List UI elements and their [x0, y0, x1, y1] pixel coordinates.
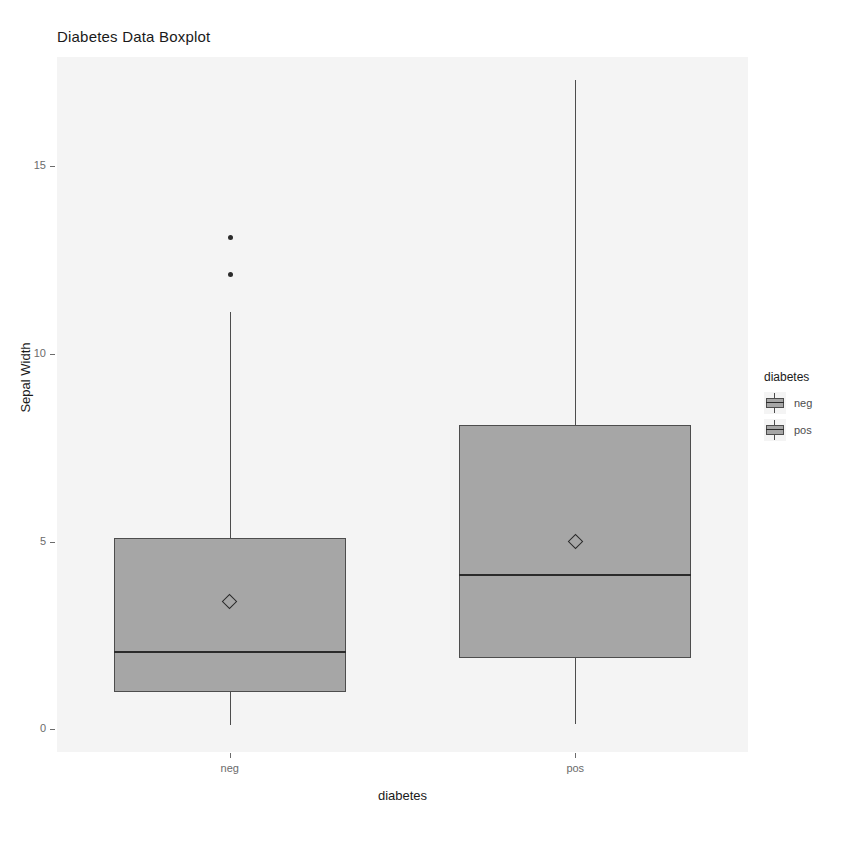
y-tick-label: 5 [0, 535, 46, 547]
median-line [114, 651, 346, 653]
legend-item-pos[interactable]: pos [764, 419, 848, 441]
whisker-upper [575, 80, 576, 426]
outlier-point [228, 272, 233, 277]
x-axis-title: diabetes [57, 788, 748, 803]
median-line [459, 574, 691, 576]
x-tick-label-pos: pos [535, 762, 615, 774]
chart-title: Diabetes Data Boxplot [57, 28, 210, 45]
y-tick-label: 0 [0, 722, 46, 734]
x-tick-mark [230, 753, 231, 758]
y-tick-mark [50, 166, 55, 167]
legend-key-icon [764, 419, 786, 441]
legend: diabetes negpos [764, 370, 848, 446]
whisker-lower [230, 692, 231, 725]
y-tick-mark [50, 729, 55, 730]
y-tick-mark [50, 354, 55, 355]
y-axis-title: Sepal Width [18, 298, 33, 458]
legend-entries: negpos [764, 392, 848, 441]
legend-key-icon [764, 392, 786, 414]
legend-title: diabetes [764, 370, 848, 384]
outlier-point [228, 235, 233, 240]
legend-item-neg[interactable]: neg [764, 392, 848, 414]
y-tick-label: 15 [0, 159, 46, 171]
whisker-upper [230, 312, 231, 537]
legend-label: pos [794, 424, 812, 436]
x-tick-label-neg: neg [190, 762, 270, 774]
y-tick-mark [50, 542, 55, 543]
boxplot-figure: Diabetes Data Boxplot 051015 Sepal Width… [0, 0, 852, 843]
whisker-lower [575, 658, 576, 724]
legend-label: neg [794, 397, 812, 409]
x-tick-mark [575, 753, 576, 758]
plot-panel [57, 57, 748, 752]
box-neg[interactable] [114, 538, 346, 692]
